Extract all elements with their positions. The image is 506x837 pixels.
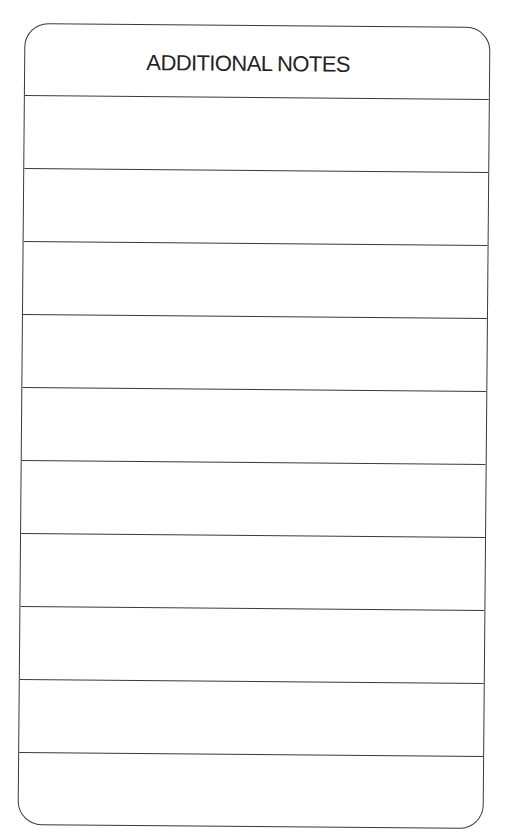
note-line-10[interactable] (19, 753, 484, 829)
note-line-input[interactable] (22, 388, 487, 464)
note-line-6[interactable] (21, 461, 486, 538)
note-line-input[interactable] (19, 753, 484, 829)
note-line-1[interactable] (24, 96, 489, 173)
note-line-input[interactable] (21, 461, 486, 537)
note-line-input[interactable] (22, 315, 487, 391)
note-line-input[interactable] (24, 169, 489, 245)
note-line-8[interactable] (20, 607, 485, 684)
notes-title: ADDITIONAL NOTES (146, 46, 368, 78)
note-line-input[interactable] (23, 242, 488, 318)
note-line-input[interactable] (20, 607, 485, 683)
note-line-5[interactable] (22, 388, 487, 465)
note-line-9[interactable] (19, 680, 484, 757)
note-line-3[interactable] (23, 242, 488, 319)
note-line-input[interactable] (20, 534, 485, 610)
notes-card: ADDITIONAL NOTES (18, 23, 491, 829)
note-line-7[interactable] (20, 534, 485, 611)
notes-header: ADDITIONAL NOTES (25, 24, 490, 100)
note-line-input[interactable] (24, 96, 489, 172)
note-line-2[interactable] (24, 169, 489, 246)
note-line-input[interactable] (19, 680, 484, 756)
note-line-4[interactable] (22, 315, 487, 392)
